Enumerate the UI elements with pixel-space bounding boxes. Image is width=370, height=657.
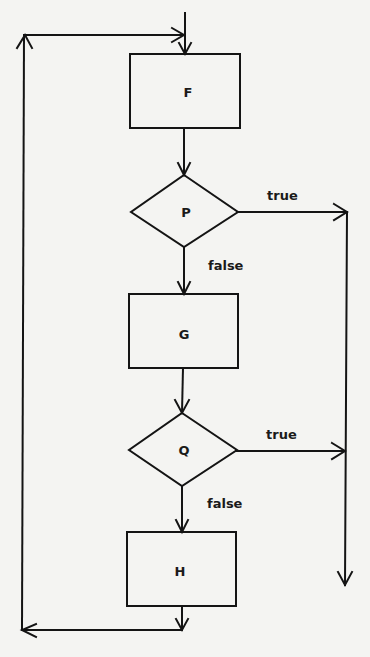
edge-label-q-false: false — [207, 496, 243, 511]
edge-label-q-true: true — [266, 427, 297, 442]
node-label-q: Q — [178, 443, 189, 458]
edge-p-true: true — [238, 188, 347, 220]
loop-back-bottom-arrow — [22, 606, 188, 637]
node-label-h: H — [175, 564, 186, 579]
exit-arrow — [338, 212, 352, 585]
node-label-p: P — [181, 205, 191, 220]
edge-label-p-true: true — [267, 188, 298, 203]
loop-back-left-line — [17, 35, 32, 630]
edge-g-to-q — [175, 368, 189, 413]
edge-q-true: true — [237, 427, 345, 459]
loop-back-top-arrow — [25, 28, 184, 42]
decision-node-q[interactable]: Q — [129, 413, 237, 486]
decision-node-p[interactable]: P — [131, 175, 238, 247]
flowchart: F P true false G Q true — [0, 0, 370, 657]
edge-p-false: false — [178, 247, 244, 294]
process-node-h[interactable]: H — [127, 532, 236, 606]
node-label-f: F — [184, 85, 193, 100]
edge-label-p-false: false — [208, 258, 244, 273]
edge-f-to-p — [178, 128, 190, 175]
process-node-f[interactable]: F — [130, 54, 240, 128]
edge-q-false: false — [176, 486, 243, 532]
node-label-g: G — [179, 327, 190, 342]
process-node-g[interactable]: G — [129, 294, 238, 368]
